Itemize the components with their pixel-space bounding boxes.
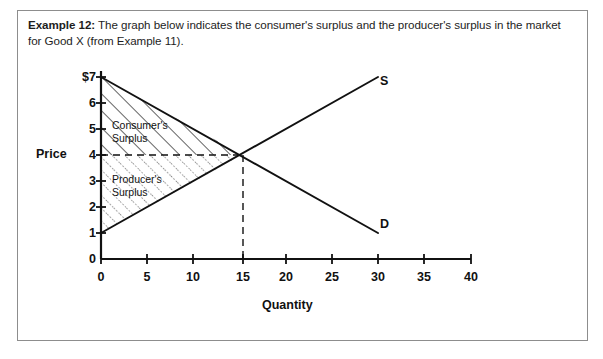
x-tick-label-35: 35 bbox=[409, 270, 439, 284]
x-tick-label-15: 15 bbox=[228, 270, 258, 284]
plot-area bbox=[18, 11, 589, 342]
y-tick-label-0: 0 bbox=[62, 252, 96, 267]
y-tick-label-7: $7 bbox=[62, 70, 96, 85]
x-tick-label-10: 10 bbox=[178, 270, 208, 284]
consumers-surplus-label: Consumer's Surplus bbox=[112, 119, 168, 145]
x-tick-label-40: 40 bbox=[456, 270, 486, 284]
x-axis-title: Quantity bbox=[262, 298, 313, 312]
y-tick-label-5: 5 bbox=[62, 122, 96, 137]
y-tick-label-6: 6 bbox=[62, 96, 96, 111]
figure-frame: Example 12: The graph below indicates th… bbox=[17, 10, 588, 341]
y-tick-label-2: 2 bbox=[62, 200, 96, 215]
x-tick-label-20: 20 bbox=[271, 270, 301, 284]
y-tick-label-3: 3 bbox=[62, 174, 96, 189]
producers-surplus-label: Producer's Surplus bbox=[112, 173, 162, 199]
x-tick-label-25: 25 bbox=[317, 270, 347, 284]
x-tick-label-0: 0 bbox=[86, 270, 116, 284]
x-tick-label-5: 5 bbox=[132, 270, 162, 284]
supply-curve-label: S bbox=[380, 74, 388, 88]
demand-curve-label: D bbox=[380, 217, 389, 231]
y-tick-label-group: 1 2 3 4 5 6 $7 0 bbox=[62, 11, 96, 342]
y-tick-label-4: 4 bbox=[62, 148, 96, 163]
supply-demand-chart: Price Quantity 1 2 3 4 5 6 $7 0 0 5 10 1… bbox=[18, 11, 589, 342]
x-tick-label-30: 30 bbox=[363, 270, 393, 284]
y-tick-label-1: 1 bbox=[62, 226, 96, 241]
